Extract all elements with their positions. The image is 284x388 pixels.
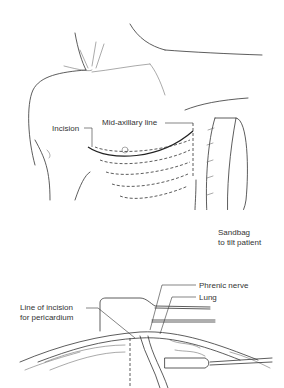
label-sandbag: Sandbag xyxy=(218,228,250,237)
surgical-illustration: Incision Mid-axillary line Sandbag to ti… xyxy=(0,0,284,388)
label-line-of-incision: Line of incision xyxy=(20,303,73,312)
label-for-pericardium: for pericardium xyxy=(20,313,73,322)
torso-drawing xyxy=(0,0,284,210)
label-incision: Incision xyxy=(52,124,79,133)
label-mid-axillary-line: Mid-axillary line xyxy=(102,118,157,127)
label-sandbag-purpose: to tilt patient xyxy=(218,238,261,247)
label-lung: Lung xyxy=(199,293,217,302)
label-phrenic-nerve: Phrenic nerve xyxy=(199,281,248,290)
